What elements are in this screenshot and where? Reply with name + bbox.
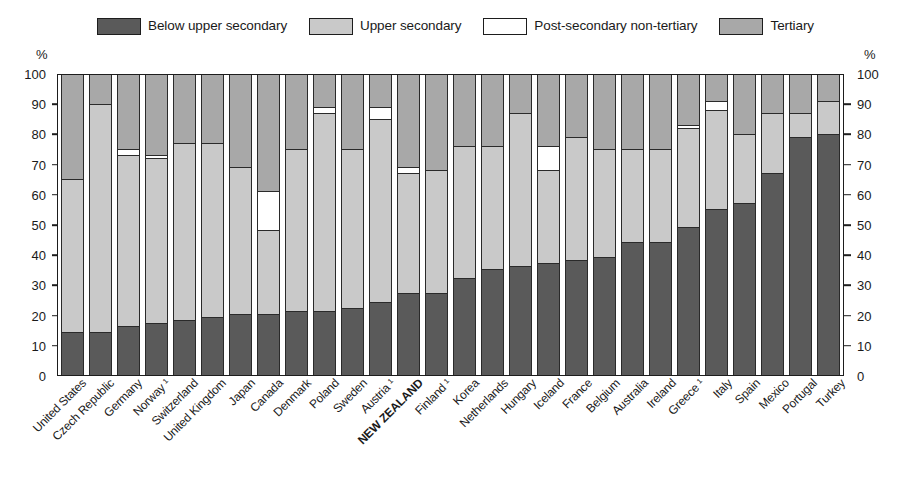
bar-segment-upper — [90, 105, 111, 333]
bar-segment-below — [314, 312, 335, 375]
bar-slot — [703, 75, 731, 375]
bar-segment-upper — [342, 150, 363, 309]
tick-mark — [844, 285, 851, 287]
bar-segment-upper — [678, 129, 699, 228]
bar-segment-upper — [202, 144, 223, 318]
bar-slot — [310, 75, 338, 375]
tick-label: 70 — [857, 158, 871, 171]
stacked-bar[interactable] — [397, 75, 420, 375]
bar-segment-upper — [510, 114, 531, 267]
bar-segment-below — [706, 210, 727, 375]
bar-segment-post — [258, 192, 279, 231]
tick-label: 60 — [32, 188, 46, 201]
bar-slot — [647, 75, 675, 375]
stacked-bar[interactable] — [481, 75, 504, 375]
bar-segment-upper — [622, 150, 643, 243]
stacked-bar[interactable] — [201, 75, 224, 375]
bar-segment-below — [146, 324, 167, 375]
bar-slot — [366, 75, 394, 375]
stacked-bar[interactable] — [733, 75, 756, 375]
y-axis-unit-left: % — [36, 47, 48, 62]
x-axis-category-labels: United StatesCzech RepublicGermanyNorway… — [57, 376, 844, 502]
bar-segment-below — [454, 279, 475, 375]
stacked-bar[interactable] — [789, 75, 812, 375]
bar-slot — [675, 75, 703, 375]
bar-slot — [591, 75, 619, 375]
tick-mark — [844, 194, 851, 196]
stacked-bar[interactable] — [677, 75, 700, 375]
tick-label: 40 — [857, 249, 871, 262]
bar-slot — [338, 75, 366, 375]
bar-slot — [422, 75, 450, 375]
stacked-bar[interactable] — [89, 75, 112, 375]
legend-label: Post-secondary non-tertiary — [534, 19, 697, 33]
bar-slot — [282, 75, 310, 375]
bar-segment-below — [258, 315, 279, 375]
bar-slot — [226, 75, 254, 375]
x-label-iceland: Iceland — [530, 376, 566, 412]
stacked-bar[interactable] — [453, 75, 476, 375]
bar-slot — [815, 75, 843, 375]
stacked-bar[interactable] — [705, 75, 728, 375]
bar-segment-below — [286, 312, 307, 375]
bar-segment-upper — [230, 168, 251, 315]
tick-label: 10 — [857, 339, 871, 352]
bar-segment-upper — [258, 231, 279, 315]
stacked-bar[interactable] — [593, 75, 616, 375]
stacked-bar[interactable] — [313, 75, 336, 375]
bar-segment-post — [370, 108, 391, 120]
legend-item-tertiary: Tertiary — [719, 18, 813, 35]
bar-segment-below — [762, 174, 783, 375]
bar-segment-below — [566, 261, 587, 375]
legend-swatch-post-icon — [483, 18, 527, 35]
tick-mark — [844, 254, 851, 256]
tick-mark — [844, 345, 851, 347]
tick-label: 90 — [32, 98, 46, 111]
bar-segment-tertiary — [370, 75, 391, 108]
bar-segment-tertiary — [594, 75, 615, 150]
bar-segment-tertiary — [258, 75, 279, 192]
tick-label: 30 — [32, 279, 46, 292]
bar-segment-tertiary — [342, 75, 363, 150]
stacked-bar[interactable] — [117, 75, 140, 375]
stacked-bar[interactable] — [61, 75, 84, 375]
bar-segment-below — [538, 264, 559, 375]
stacked-bar[interactable] — [537, 75, 560, 375]
stacked-bar[interactable] — [257, 75, 280, 375]
tick-label: 60 — [857, 188, 871, 201]
legend-item-below: Below upper secondary — [97, 18, 287, 35]
stacked-bar[interactable] — [649, 75, 672, 375]
bar-segment-upper — [286, 150, 307, 312]
stacked-bar[interactable] — [145, 75, 168, 375]
stacked-bar[interactable] — [229, 75, 252, 375]
stacked-bar[interactable] — [369, 75, 392, 375]
stacked-bar[interactable] — [285, 75, 308, 375]
tick-label: 50 — [857, 219, 871, 232]
tick-mark — [844, 224, 851, 226]
stacked-bar[interactable] — [817, 75, 840, 375]
bar-slot — [535, 75, 563, 375]
stacked-bar[interactable] — [621, 75, 644, 375]
bar-segment-below — [342, 309, 363, 375]
bar-segment-upper — [734, 135, 755, 204]
bar-segment-tertiary — [790, 75, 811, 114]
tick-label: 0 — [39, 370, 46, 383]
stacked-bar[interactable] — [761, 75, 784, 375]
bar-segment-tertiary — [398, 75, 419, 168]
stacked-bar[interactable] — [173, 75, 196, 375]
bar-slot — [619, 75, 647, 375]
bar-segment-below — [818, 135, 839, 375]
bar-slot — [759, 75, 787, 375]
stacked-bar[interactable] — [565, 75, 588, 375]
bar-segment-tertiary — [202, 75, 223, 144]
bar-segment-tertiary — [286, 75, 307, 150]
stacked-bar[interactable] — [341, 75, 364, 375]
plot-area — [57, 74, 844, 376]
bar-segment-upper — [650, 150, 671, 243]
bar-segment-upper — [706, 111, 727, 210]
stacked-bar[interactable] — [425, 75, 448, 375]
bar-slot — [86, 75, 114, 375]
tick-mark — [844, 103, 851, 105]
stacked-bar[interactable] — [509, 75, 532, 375]
bar-segment-below — [62, 333, 83, 375]
